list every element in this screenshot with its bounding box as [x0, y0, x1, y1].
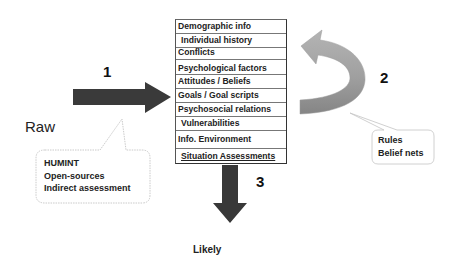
sources-callout-text: HUMINT Open-sources Indirect assessment: [44, 157, 131, 195]
rules-callout-text: Rules Belief nets: [378, 134, 424, 159]
model-row-attitudes-beliefs: Attitudes / Beliefs: [176, 75, 286, 89]
rules-line: Rules: [378, 134, 424, 147]
model-row-goals-scripts: Goals / Goal scripts: [176, 89, 286, 103]
step-number-2: 2: [380, 69, 388, 86]
model-row-vulnerabilities: Vulnerabilities: [176, 117, 286, 131]
model-row-info-environment: Info. Environment: [176, 131, 286, 149]
profile-model-box: Demographic info Individual history Conf…: [175, 19, 287, 164]
step-number-1: 1: [103, 63, 111, 80]
feedback-loop-arrow-icon: [300, 30, 365, 114]
raw-input-label: Raw: [25, 118, 55, 135]
belief-nets-line: Belief nets: [378, 147, 424, 160]
input-arrow-icon: [73, 82, 171, 113]
model-row-situation-assessments: Situation Assessments: [176, 149, 286, 162]
model-row-psychological-factors: Psychological factors: [176, 60, 286, 75]
model-row-psychosocial-relations: Psychosocial relations: [176, 103, 286, 117]
source-open-sources: Open-sources: [44, 170, 131, 183]
step-number-3: 3: [256, 173, 264, 190]
likely-output-label: Likely: [193, 244, 221, 255]
model-row-individual-history: Individual history: [176, 34, 286, 48]
model-row-demographic-info: Demographic info: [176, 20, 286, 34]
model-row-conflicts: Conflicts: [176, 47, 286, 60]
source-indirect-assessment: Indirect assessment: [44, 182, 131, 195]
output-arrow-icon: [213, 165, 247, 223]
source-humint: HUMINT: [44, 157, 131, 170]
